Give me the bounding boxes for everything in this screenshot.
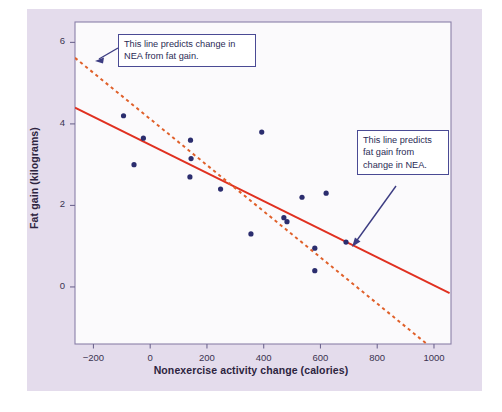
data-point <box>312 268 317 273</box>
figure-container: Nonexercise activity change (calories) F… <box>0 0 502 412</box>
annotation-nea-from-fat: This line predicts change in NEA from fa… <box>118 34 256 67</box>
x-tick-label: −200 <box>68 352 118 363</box>
y-tick-label: 2 <box>41 198 65 209</box>
x-tick-label: 400 <box>239 352 289 363</box>
x-tick-label: 0 <box>125 352 175 363</box>
data-point <box>131 162 136 167</box>
data-point <box>324 191 329 196</box>
data-point <box>188 156 193 161</box>
data-point <box>312 246 317 251</box>
data-point <box>284 219 289 224</box>
y-tick-label: 0 <box>41 280 65 291</box>
annotation-fat-from-nea: This line predicts fat gain from change … <box>357 130 449 175</box>
y-tick-label: 6 <box>41 35 65 46</box>
data-point <box>218 187 223 192</box>
data-point <box>248 231 253 236</box>
data-point <box>281 215 286 220</box>
data-point <box>188 138 193 143</box>
x-axis-title: Nonexercise activity change (calories) <box>0 364 502 376</box>
data-point <box>121 113 126 118</box>
data-point <box>187 174 192 179</box>
x-tick-label: 200 <box>182 352 232 363</box>
data-point <box>299 195 304 200</box>
data-point <box>141 136 146 141</box>
y-tick-label: 4 <box>41 117 65 128</box>
data-point <box>259 129 264 134</box>
y-axis-title: Fat gain (kilograms) <box>28 78 40 278</box>
plot-area-background <box>75 22 451 344</box>
x-tick-label: 800 <box>352 352 402 363</box>
x-tick-label: 1000 <box>409 352 459 363</box>
data-point <box>343 240 348 245</box>
x-tick-label: 600 <box>295 352 345 363</box>
